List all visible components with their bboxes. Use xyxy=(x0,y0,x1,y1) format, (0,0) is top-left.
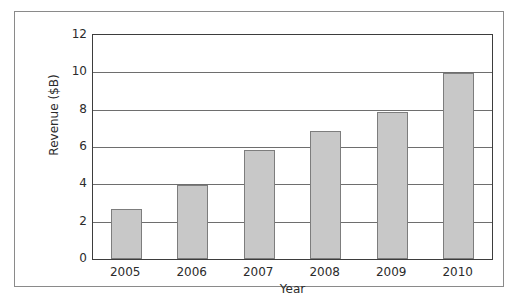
x-tick-label: 2007 xyxy=(225,265,291,279)
y-tick-label: 12 xyxy=(53,28,87,40)
x-tick-label: 2005 xyxy=(92,265,158,279)
y-axis-tick-labels: 12 10 8 6 4 2 0 xyxy=(51,34,87,260)
x-axis-label: Year xyxy=(92,282,493,296)
y-tick-label: 6 xyxy=(53,140,87,152)
bar xyxy=(244,150,275,259)
gridline xyxy=(93,110,492,111)
figure-frame: Revenue ($B) 12 10 8 6 4 2 0 2005 2006 2… xyxy=(14,11,504,287)
gridline xyxy=(93,222,492,223)
y-tick-label: 0 xyxy=(53,252,87,264)
bar xyxy=(443,73,474,259)
bar xyxy=(377,112,408,259)
gridline xyxy=(93,72,492,73)
y-tick-label: 4 xyxy=(53,177,87,189)
x-tick-label: 2009 xyxy=(358,265,424,279)
bar xyxy=(111,209,142,259)
gridline xyxy=(93,147,492,148)
y-tick-label: 8 xyxy=(53,103,87,115)
y-tick-label: 10 xyxy=(53,65,87,77)
plot-area xyxy=(92,34,493,260)
x-tick-label: 2006 xyxy=(159,265,225,279)
y-tick-label: 2 xyxy=(53,215,87,227)
x-axis-tick-labels: 2005 2006 2007 2008 2009 2010 xyxy=(92,265,493,281)
chart-figure: Revenue ($B) 12 10 8 6 4 2 0 2005 2006 2… xyxy=(0,0,519,300)
bar xyxy=(310,131,341,259)
gridline xyxy=(93,184,492,185)
bar xyxy=(177,185,208,259)
x-tick-label: 2010 xyxy=(425,265,491,279)
x-tick-label: 2008 xyxy=(292,265,358,279)
